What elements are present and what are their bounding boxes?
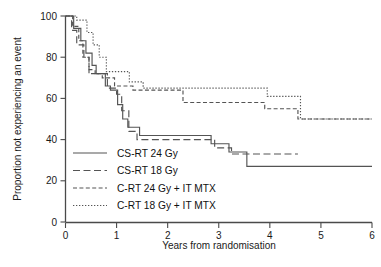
y-tick-label: 80	[46, 52, 58, 63]
y-tick-label: 20	[46, 175, 58, 186]
legend-label-3: C-RT 18 Gy + IT MTX	[117, 200, 216, 211]
x-axis-group: 0123456 Years from randomisation	[63, 223, 376, 252]
curve-series-2	[66, 16, 373, 119]
y-tick-label: 0	[51, 217, 57, 228]
y-tick-label: 100	[40, 11, 57, 22]
y-tick-label: 40	[46, 134, 58, 145]
x-tick-marks	[66, 223, 373, 229]
x-tick-label: 0	[63, 230, 69, 241]
y-tick-marks	[61, 16, 66, 222]
y-axis-group: 020406080100 Proportion not experiencing…	[12, 11, 66, 228]
chart-canvas: 020406080100 Proportion not experiencing…	[0, 0, 381, 267]
survival-chart: 020406080100 Proportion not experiencing…	[0, 0, 381, 267]
y-tick-label: 60	[46, 93, 58, 104]
curve-series-3	[66, 16, 373, 119]
y-axis-title: Proportion not experiencing an event	[12, 37, 23, 201]
legend-label-0: CS-RT 24 Gy	[117, 148, 179, 159]
legend-label-2: C-RT 24 Gy + IT MTX	[117, 183, 216, 194]
chart-legend: CS-RT 24 GyCS-RT 18 GyC-RT 24 Gy + IT MT…	[73, 148, 216, 212]
curve-group	[66, 16, 373, 166]
legend-label-1: CS-RT 18 Gy	[117, 165, 179, 176]
x-tick-label: 1	[114, 230, 120, 241]
x-tick-label: 5	[318, 230, 324, 241]
x-axis-title: Years from randomisation	[162, 240, 276, 251]
curve-series-1	[66, 16, 298, 154]
x-tick-label: 6	[369, 230, 375, 241]
y-tick-labels: 020406080100	[40, 11, 57, 228]
curve-series-0	[66, 16, 373, 166]
